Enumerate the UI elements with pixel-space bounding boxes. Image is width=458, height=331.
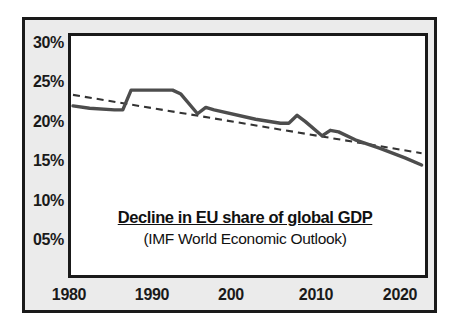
y-axis-tick-15: 15% xyxy=(18,153,64,169)
y-axis-tick-05: 05% xyxy=(18,232,64,248)
x-axis-tick-1990: 1990 xyxy=(117,287,187,303)
chart-figure: 30% 25% 20% 15% 10% 05% 1980 1990 200 20… xyxy=(0,0,458,331)
y-axis-tick-20: 20% xyxy=(18,114,64,130)
x-axis-tick-2020: 2020 xyxy=(365,287,435,303)
y-axis-tick-10: 10% xyxy=(18,193,64,209)
y-axis-tick-25: 25% xyxy=(18,74,64,90)
chart-annotation: Decline in EU share of global GDP (IMF W… xyxy=(65,208,425,248)
chart-subtitle: (IMF World Economic Outlook) xyxy=(65,229,425,248)
y-axis-tick-30: 30% xyxy=(18,35,64,51)
chart-title: Decline in EU share of global GDP xyxy=(65,208,425,227)
x-axis-tick-2010: 2010 xyxy=(281,287,351,303)
x-axis-tick-1980: 1980 xyxy=(34,287,104,303)
data-line-series xyxy=(73,90,422,165)
chart-card xyxy=(22,17,437,313)
x-axis-tick-2000: 200 xyxy=(196,287,266,303)
